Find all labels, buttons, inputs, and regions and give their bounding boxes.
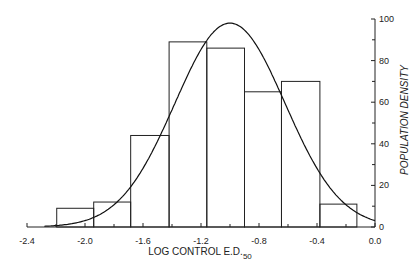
x-tick-label: -0.8 bbox=[251, 236, 267, 246]
histogram-bars bbox=[57, 42, 357, 227]
histogram-bar bbox=[131, 135, 169, 227]
y-tick-label: 20 bbox=[379, 180, 389, 190]
histogram-bar bbox=[207, 48, 245, 227]
y-tick-label: 80 bbox=[379, 56, 389, 66]
x-axis: -2.4-2.0-1.6-1.2-0.8-0.40.0 bbox=[19, 223, 381, 246]
x-tick-label: -2.0 bbox=[77, 236, 93, 246]
normal-fit-curve bbox=[44, 23, 375, 226]
x-axis-label: LOG CONTROL E.D.50 bbox=[148, 246, 252, 261]
histogram-bar bbox=[169, 42, 207, 227]
x-tick-label: -1.2 bbox=[193, 236, 209, 246]
histogram-bar bbox=[320, 204, 357, 227]
y-tick-label: 100 bbox=[379, 14, 394, 24]
x-tick-label: -2.4 bbox=[19, 236, 35, 246]
y-tick-label: 60 bbox=[379, 97, 389, 107]
y-tick-label: 40 bbox=[379, 139, 389, 149]
x-tick-label: -0.4 bbox=[309, 236, 325, 246]
x-tick-label: -1.6 bbox=[135, 236, 151, 246]
y-axis: 020406080100 bbox=[371, 14, 394, 232]
x-tick-label: 0.0 bbox=[369, 236, 382, 246]
y-axis-label: POPULATION DENSITY bbox=[399, 64, 410, 175]
y-tick-label: 0 bbox=[379, 222, 384, 232]
histogram-chart: -2.4-2.0-1.6-1.2-0.8-0.40.0 020406080100… bbox=[0, 0, 420, 268]
histogram-bar bbox=[281, 81, 319, 227]
histogram-bar bbox=[57, 208, 94, 227]
histogram-bar bbox=[245, 92, 282, 227]
